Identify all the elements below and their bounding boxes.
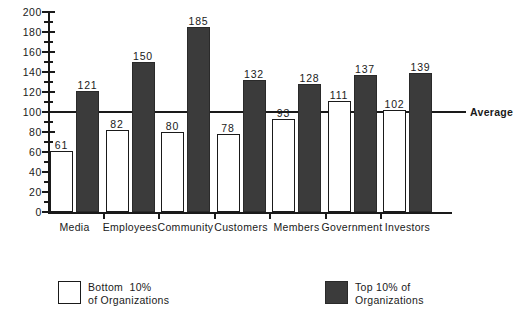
y-axis-tick-label: 100 [23,107,42,118]
y-axis-tick [42,131,55,133]
y-axis-tick-label: 180 [23,27,42,38]
y-axis-minor-tick [44,81,53,83]
y-axis-tick [42,91,55,93]
y-axis-tick-label: 20 [29,187,42,198]
x-axis-tick [103,212,105,219]
bar-high-customers: 132 [243,80,266,212]
bar-low-customers: 78 [217,134,240,212]
y-axis-minor-tick [44,41,53,43]
bar-value-label: 61 [55,140,68,151]
y-axis-minor-tick [44,61,53,63]
y-axis-tick-label: 200 [23,7,42,18]
y-axis-minor-tick [44,101,53,103]
y-axis-tick [42,31,55,33]
y-axis-tick-label: 60 [29,147,42,158]
legend-label: Bottom 10% of Organizations [88,281,169,307]
legend-swatch-open [58,281,81,304]
x-axis-label-government: Government [322,222,383,233]
x-axis-label-investors: Investors [385,222,430,233]
bar-value-label: 132 [244,69,264,80]
bar-value-label: 185 [189,16,209,27]
x-axis-label-members: Members [274,222,320,233]
x-axis-tick [158,212,160,219]
y-axis-minor-tick [44,121,53,123]
bar-high-community: 185 [187,27,210,212]
legend-item: Top 10% of Organizations [325,281,424,307]
bar-value-label: 80 [166,121,179,132]
bar-value-label: 121 [78,80,98,91]
bar-low-government: 111 [328,101,351,212]
y-axis-tick [42,51,55,53]
bar-value-label: 111 [330,90,348,101]
bar-value-label: 137 [355,64,375,75]
y-axis-minor-tick [44,21,53,23]
bar-value-label: 102 [385,99,405,110]
x-axis-label-employees: Employees [103,222,158,233]
y-axis-tick [42,71,55,73]
legend-label: Top 10% of Organizations [355,281,424,307]
x-axis-tick [380,212,382,219]
bar-value-label: 78 [221,123,234,134]
legend-item: Bottom 10% of Organizations [58,281,169,307]
x-axis-line [48,212,452,214]
y-axis-tick-label: 80 [29,127,42,138]
legend-swatch-filled [325,281,348,304]
y-axis-tick-label: 120 [23,87,42,98]
bar-low-investors: 102 [383,110,406,212]
x-axis-label-customers: Customers [214,222,267,233]
x-axis-label-community: Community [158,222,214,233]
average-line-label: Average [470,107,513,118]
bar-high-government: 137 [354,75,377,212]
y-axis-minor-tick [44,141,53,143]
bar-low-media: 61 [50,151,73,212]
bar-value-label: 128 [300,73,320,84]
bar-low-members: 93 [272,119,295,212]
y-axis-tick-label: 160 [23,47,42,58]
bar-low-employees: 82 [106,130,129,212]
y-axis-tick-label: 40 [29,167,42,178]
y-axis-tick-label: 140 [23,67,42,78]
bar-value-label: 93 [277,108,290,119]
bar-value-label: 139 [411,62,431,73]
x-axis-tick [269,212,271,219]
x-axis-label-media: Media [59,222,89,233]
x-axis-tick [214,212,216,219]
y-axis-tick-label: 0 [36,207,42,218]
bar-value-label: 150 [133,51,153,62]
bar-high-employees: 150 [132,62,155,212]
bar-high-investors: 139 [409,73,432,212]
y-axis-tick [42,11,55,13]
x-axis-tick [325,212,327,219]
bar-high-members: 128 [298,84,321,212]
bar-high-media: 121 [76,91,99,212]
bar-value-label: 82 [110,119,123,130]
grouped-bar-chart: 0204060801001201401601802006112182150801… [0,0,521,310]
bar-low-community: 80 [161,132,184,212]
